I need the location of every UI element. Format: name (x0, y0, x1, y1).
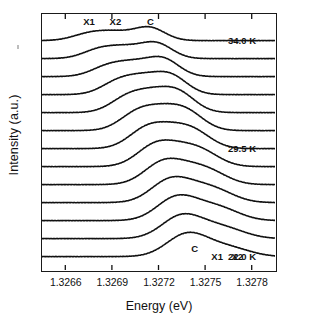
x-tick-label: 1.3278 (236, 276, 268, 288)
x-tick-label: 1.3266 (50, 276, 82, 288)
spectra-traces (42, 14, 275, 270)
peak-label-x1-bottom: X1 (211, 251, 223, 262)
figure-root: Intensity (a.u.) 1.32661.32691.32721.327… (0, 0, 323, 325)
temperature-label-bottom: 22.0 K (228, 251, 256, 262)
temperature-label-middle: 29.5 K (228, 143, 256, 154)
spectrum-trace (42, 214, 275, 239)
spectrum-trace (42, 158, 275, 185)
peak-label-c-bottom: C (191, 243, 198, 254)
x-tick-label: 1.3272 (143, 276, 175, 288)
temperature-label-top: 34.0 K (228, 35, 256, 46)
x-tick-label: 1.3275 (190, 276, 222, 288)
x-axis-title: Energy (eV) (41, 299, 277, 313)
peak-label-c-top: C (147, 16, 154, 27)
spectrum-trace (42, 195, 275, 221)
spectrum-trace (42, 86, 275, 113)
peak-label-x2-top: X2 (110, 16, 122, 27)
y-axis-title: Intensity (a.u.) (7, 35, 21, 235)
peak-label-x1-top: X1 (83, 16, 95, 27)
spectrum-trace (42, 103, 275, 130)
spectrum-trace (42, 176, 275, 202)
x-tick-label: 1.3269 (97, 276, 129, 288)
spectrum-trace (42, 56, 275, 76)
